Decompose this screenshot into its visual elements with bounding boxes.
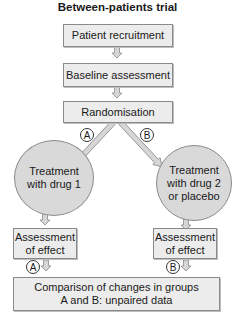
treatment-drug2-circle: Treatment with drug 2 or placebo — [156, 145, 232, 221]
baseline-assessment-label: Baseline assessment — [66, 69, 170, 82]
treatment-a-line: Treatment — [27, 165, 81, 178]
assessment-a-line: of effect — [15, 244, 75, 257]
treatment-a-line: with drug 1 — [27, 178, 81, 191]
treatment-drug1-circle: Treatment with drug 1 — [14, 140, 94, 216]
assessment-b-line: Assessment — [155, 231, 215, 244]
baseline-assessment-box: Baseline assessment — [63, 63, 173, 87]
patient-recruitment-label: Patient recruitment — [72, 29, 164, 42]
assessment-a-box: Assessment of effect — [13, 228, 77, 259]
comparison-line-1: Comparison of changes in groups — [34, 281, 198, 294]
treatment-b-line: or placebo — [167, 190, 221, 203]
randomisation-box: Randomisation — [63, 101, 173, 123]
comparison-box: Comparison of changes in groups A and B:… — [13, 277, 220, 311]
arrow-down-icon — [112, 47, 122, 58]
assessment-b-line: of effect — [155, 244, 215, 257]
group-a-tag: A — [80, 128, 94, 142]
treatment-b-line: Treatment — [167, 164, 221, 177]
arrow-down-icon — [41, 260, 51, 271]
randomisation-label: Randomisation — [81, 106, 154, 119]
arrow-down-icon — [112, 87, 122, 98]
arrow-down-icon — [181, 260, 191, 271]
group-a-tag-bottom: A — [26, 260, 40, 274]
patient-recruitment-box: Patient recruitment — [63, 24, 173, 47]
group-b-tag-bottom: B — [166, 260, 180, 274]
assessment-b-box: Assessment of effect — [153, 228, 217, 259]
comparison-line-2: A and B: unpaired data — [34, 294, 198, 307]
assessment-a-line: Assessment — [15, 231, 75, 244]
group-b-tag: B — [140, 128, 154, 142]
arrow-diagonal-b-icon — [117, 120, 165, 171]
treatment-b-line: with drug 2 — [167, 177, 221, 190]
